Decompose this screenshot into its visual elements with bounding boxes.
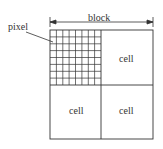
cell-label-top-right: cell xyxy=(119,54,133,64)
pixel-label: pixel xyxy=(8,22,28,32)
cell-label-bottom-left: cell xyxy=(69,106,83,116)
block-label: block xyxy=(88,13,110,23)
pixel-grid xyxy=(50,30,101,85)
cell-label-bottom-right: cell xyxy=(119,106,133,116)
block-outline xyxy=(50,30,153,139)
pixel-leader-line xyxy=(26,32,53,42)
